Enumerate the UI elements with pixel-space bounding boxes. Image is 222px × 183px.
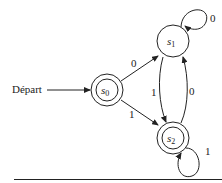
transition-s1-loop bbox=[181, 10, 207, 29]
state-s2: s2 bbox=[157, 122, 189, 154]
transition-label: 1 bbox=[205, 145, 211, 157]
svg-text:s1: s1 bbox=[167, 35, 175, 49]
svg-text:s0: s0 bbox=[101, 84, 109, 98]
transition-s0-s1 bbox=[121, 56, 158, 81]
transition-label: 0 bbox=[210, 12, 216, 24]
transition-s2-s1 bbox=[181, 57, 187, 123]
state-s0: s0 bbox=[91, 74, 123, 106]
start-label: Départ bbox=[12, 83, 42, 95]
svg-text:s2: s2 bbox=[167, 132, 175, 146]
transition-s1-s2 bbox=[159, 57, 166, 122]
transition-label: 0 bbox=[189, 85, 195, 97]
state-s1: s1 bbox=[157, 25, 189, 57]
transition-label: 1 bbox=[151, 86, 157, 98]
automaton-diagram: Départ s0 s1 s2 0 1 0 1 0 1 bbox=[0, 0, 222, 183]
transition-label: 1 bbox=[129, 108, 135, 120]
transition-s0-s2 bbox=[121, 100, 158, 125]
transition-label: 0 bbox=[131, 57, 137, 69]
